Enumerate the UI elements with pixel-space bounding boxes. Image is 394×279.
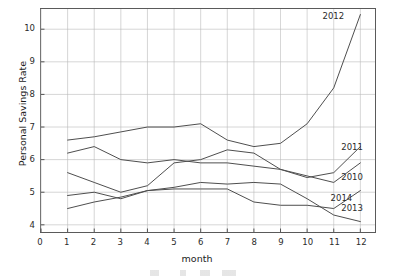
x-tick-label-3: 3 [110, 237, 130, 247]
bottom-artifact [150, 270, 245, 276]
series-label-2011: 2011 [341, 142, 363, 152]
y-axis-title: Personal Savings Rate [17, 39, 28, 189]
y-tick-label-10: 10 [9, 23, 35, 33]
x-tick-label-5: 5 [164, 237, 184, 247]
series-label-2013: 2013 [341, 203, 363, 213]
series-label-2014: 2014 [331, 193, 353, 203]
y-tick-label-4: 4 [9, 220, 35, 230]
series-label-2010: 2010 [341, 172, 363, 182]
y-tick-label-5: 5 [9, 187, 35, 197]
chart-figure: 45678910 0123456789101112 20102011201220… [0, 0, 394, 279]
x-tick-label-1: 1 [57, 237, 77, 247]
plot-area [40, 8, 376, 233]
x-tick-label-7: 7 [217, 237, 237, 247]
x-tick-label-0: 0 [30, 237, 50, 247]
x-tick-label-11: 11 [325, 237, 345, 247]
series-label-2012: 2012 [323, 11, 345, 21]
x-axis-title: month [0, 253, 394, 264]
x-tick-label-10: 10 [298, 237, 318, 247]
x-tick-label-4: 4 [137, 237, 157, 247]
x-tick-label-12: 12 [351, 237, 371, 247]
x-tick-label-6: 6 [191, 237, 211, 247]
x-tick-label-9: 9 [271, 237, 291, 247]
x-tick-label-2: 2 [84, 237, 104, 247]
tick-marks [41, 9, 375, 232]
x-tick-label-8: 8 [244, 237, 264, 247]
